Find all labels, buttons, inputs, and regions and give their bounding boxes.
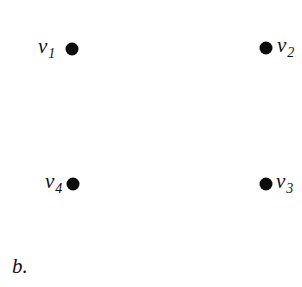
vertex-label-v2-subscript: 2 <box>287 45 294 60</box>
vertex-label-v3-subscript: 3 <box>286 181 293 196</box>
vertex-v2 <box>260 42 273 55</box>
vertex-label-v2: v2 <box>277 35 294 56</box>
vertex-label-v4-name: v <box>45 169 54 193</box>
vertex-label-v3: v3 <box>276 171 293 192</box>
vertex-v4 <box>67 178 80 191</box>
vertex-label-v1-subscript: 1 <box>48 46 55 61</box>
vertex-label-v3-name: v <box>276 169 285 193</box>
graph-diagram: v1 v2 v4 v3 b. <box>0 0 302 287</box>
figure-caption: b. <box>12 256 28 277</box>
vertex-label-v4: v4 <box>45 171 62 192</box>
vertex-label-v4-subscript: 4 <box>55 181 62 196</box>
vertex-label-v1: v1 <box>38 36 55 57</box>
vertex-label-v2-name: v <box>277 33 286 57</box>
vertex-label-v1-name: v <box>38 34 47 58</box>
vertex-v3 <box>260 178 273 191</box>
vertex-v1 <box>66 43 79 56</box>
